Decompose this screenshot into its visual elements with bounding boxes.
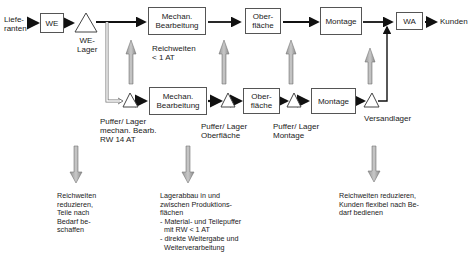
buffer-mechan-bearb-label: Puffer/ Lager mechan. Bearb. RW 14 AT [100,117,156,144]
versandlager-label: Versandlager [364,114,411,124]
node-wa[interactable]: WA [396,12,423,30]
we-lager-triangle [75,13,97,32]
node-mechan-bearbeitung-top[interactable]: Mechan. Bearbeitung [148,7,206,35]
node-oberflaeche-bottom[interactable]: Ober- fläche [243,88,280,114]
buffer-montage-label: Puffer/ Lager Montage [273,122,319,140]
node-we[interactable]: WE [40,13,64,33]
node-oberflaeche-top[interactable]: Ober- fläche [245,8,281,34]
measure-left: Reichweiten reduzieren, Teile nach Bedar… [57,192,96,235]
node-montage-bottom[interactable]: Montage [311,88,356,114]
node-montage-top[interactable]: Montage [320,7,362,35]
we-lager-label: WE- Lager [77,36,97,54]
measure-center: Lagerabbau in und zwischen Produktions- … [160,192,241,252]
node-mechan-bearbeitung-bottom[interactable]: Mechan. Bearbeitung [149,87,207,115]
source-lieferanten: Liefe- ranten [4,15,27,33]
buffer-oberflaeche-label: Puffer/ Lager Oberfläche [201,122,247,140]
measure-right: Reichweiten reduzieren, Kunden flexibel … [339,192,419,218]
sink-kunden: Kunden [440,17,468,27]
annotation-reichweiten: Reichweiten < 1 AT [152,44,196,62]
